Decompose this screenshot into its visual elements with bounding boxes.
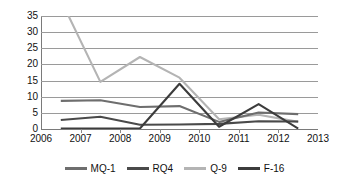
legend-label-rq4: RQ4 <box>153 163 174 174</box>
x-tick-label-2008: 2008 <box>100 133 140 145</box>
legend-swatch-mq-1 <box>65 167 87 170</box>
series-line-mq-1 <box>61 100 298 122</box>
legend-swatch-q-9 <box>184 167 206 170</box>
x-tick-2008 <box>120 129 121 133</box>
x-tick-label-2012: 2012 <box>258 133 298 145</box>
x-tick-2009 <box>160 129 161 133</box>
x-tick-2012 <box>278 129 279 133</box>
x-axis-tick-labels: 20062007200820092010201120122013 <box>41 133 318 149</box>
x-tick-label-2006: 2006 <box>21 133 61 145</box>
y-axis-tick-labels: 35302520151050 <box>0 0 38 184</box>
x-tick-label-2009: 2009 <box>140 133 180 145</box>
legend-label-q-9: Q-9 <box>210 163 227 174</box>
legend-item-q-9[interactable]: Q-9 <box>184 163 227 174</box>
line-chart: 35302520151050 2006200720082009201020112… <box>0 0 349 184</box>
chart-legend: MQ-1RQ4Q-9F-16 <box>0 158 349 178</box>
y-tick-label-30: 30 <box>4 27 38 37</box>
legend-item-f-16[interactable]: F-16 <box>238 163 285 174</box>
x-tick-label-2013: 2013 <box>298 133 338 145</box>
legend-swatch-rq4 <box>127 167 149 170</box>
y-tick-label-20: 20 <box>4 59 38 69</box>
legend-label-f-16: F-16 <box>264 163 285 174</box>
y-tick-label-15: 15 <box>4 76 38 86</box>
y-tick-label-35: 35 <box>4 11 38 21</box>
x-tick-2011 <box>239 129 240 133</box>
legend-item-rq4[interactable]: RQ4 <box>127 163 174 174</box>
x-axis-line <box>41 129 318 130</box>
y-tick-label-25: 25 <box>4 43 38 53</box>
plot-area <box>41 16 318 129</box>
x-tick-label-2010: 2010 <box>179 133 219 145</box>
series-line-rq4 <box>61 117 298 125</box>
x-tick-label-2011: 2011 <box>219 133 259 145</box>
x-tick-label-2007: 2007 <box>61 133 101 145</box>
x-tick-2007 <box>81 129 82 133</box>
series-layer <box>41 16 318 129</box>
x-tick-2010 <box>199 129 200 133</box>
y-tick-label-10: 10 <box>4 92 38 102</box>
legend-label-mq-1: MQ-1 <box>91 163 116 174</box>
legend-item-mq-1[interactable]: MQ-1 <box>65 163 116 174</box>
y-tick-label-5: 5 <box>4 108 38 118</box>
legend-swatch-f-16 <box>238 167 260 170</box>
